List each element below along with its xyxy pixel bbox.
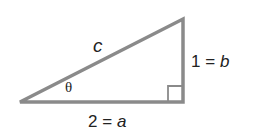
hypotenuse-label: c — [93, 36, 103, 55]
vertical-side-var: b — [220, 52, 229, 71]
angle-label: θ — [65, 80, 72, 95]
vertical-side-eq: = — [205, 52, 215, 71]
vertical-side-value: 1 — [191, 52, 200, 71]
vertical-side-label: 1 = b — [191, 53, 229, 70]
horizontal-side-value: 2 — [88, 112, 97, 131]
right-angle-marker — [168, 86, 183, 102]
horizontal-side-label: 2 = a — [88, 113, 126, 130]
triangle — [20, 19, 183, 102]
horizontal-side-var: a — [117, 112, 126, 131]
horizontal-side-eq: = — [102, 112, 112, 131]
